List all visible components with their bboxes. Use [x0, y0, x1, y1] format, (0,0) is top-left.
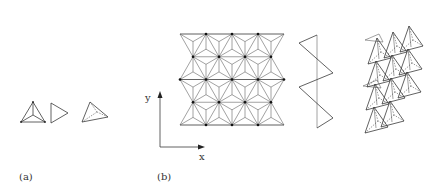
grid-edge: [232, 80, 245, 103]
x-axis-arrow-icon: [198, 145, 205, 150]
grid-edge: [219, 102, 232, 125]
shared-vertex: [218, 101, 221, 104]
shared-vertex: [257, 78, 260, 81]
tetrahedra-layer-plan: [179, 33, 286, 127]
grid-edge: [206, 57, 219, 80]
grid-edge: [271, 102, 284, 125]
tetrahedron-edge: [411, 86, 421, 92]
shared-vertex: [270, 101, 273, 104]
grid-edge: [258, 34, 271, 57]
shared-vertex: [192, 55, 195, 58]
grid-edge: [193, 57, 206, 80]
grid-edge: [258, 57, 271, 80]
tetrahedron-face: [365, 34, 383, 42]
figure: (a) y x (b): [0, 0, 435, 189]
grid-edge: [219, 80, 232, 103]
grid-edge: [219, 34, 232, 57]
grid-edge: [245, 34, 258, 57]
grid-edge: [232, 34, 245, 57]
grid-edge: [180, 34, 193, 57]
shared-vertex: [231, 78, 234, 81]
tetrahedron-perspective-view: [82, 102, 108, 122]
tetrahedron-face: [366, 84, 389, 110]
grid-edge: [206, 34, 219, 57]
tetrahedron-face: [368, 38, 391, 64]
grid-edge: [245, 80, 258, 103]
tetrahedron-edge: [412, 63, 422, 69]
shared-vertex: [244, 101, 247, 104]
grid-edge: [193, 80, 206, 103]
grid-edge: [271, 80, 284, 103]
grid-edge: [206, 80, 219, 103]
shared-vertex: [270, 55, 273, 58]
shared-vertex: [244, 55, 247, 58]
axes: y x: [144, 91, 205, 162]
panel-a-label: (a): [19, 171, 33, 182]
grid-edge: [258, 80, 271, 103]
tetrahedron-face: [400, 26, 423, 52]
panel-b: y x (b): [144, 26, 423, 182]
zigzag-chain-profile: [299, 35, 333, 128]
shared-vertex: [231, 33, 234, 36]
grid-edge: [258, 102, 271, 125]
y-axis-arrow-icon: [158, 91, 163, 98]
grid-edge: [180, 102, 193, 125]
shared-vertex: [257, 33, 260, 36]
panel-a: (a): [19, 101, 108, 182]
shared-vertex: [218, 55, 221, 58]
tetrahedron-face: [365, 107, 388, 133]
shared-vertex: [192, 101, 195, 104]
grid-edge: [232, 102, 245, 125]
grid-edge: [271, 57, 284, 80]
shared-vertex: [257, 124, 260, 127]
grid-edge: [193, 102, 206, 125]
grid-edge: [206, 102, 219, 125]
shared-vertex: [205, 78, 208, 81]
shared-vertex: [205, 124, 208, 127]
panel-b-label: (b): [157, 171, 171, 182]
grid-edge: [232, 57, 245, 80]
tetrahedron-side-view: [51, 103, 68, 123]
shared-vertex: [231, 124, 234, 127]
shared-vertex: [179, 78, 182, 81]
y-axis-label: y: [144, 92, 151, 103]
grid-edge: [180, 57, 193, 80]
grid-edge: [245, 57, 258, 80]
tetrahedron-face: [384, 32, 407, 58]
shared-vertex: [205, 33, 208, 36]
grid-edge: [219, 57, 232, 80]
tetrahedron-edge: [413, 40, 423, 46]
grid-edge: [180, 80, 193, 103]
shared-vertex: [283, 78, 286, 81]
tetrahedron-top-view: [20, 101, 46, 123]
x-axis-label: x: [199, 151, 205, 162]
grid-edge: [245, 102, 258, 125]
tetrahedra-stack-perspective: [363, 26, 423, 133]
grid-edge: [193, 34, 206, 57]
grid-edge: [271, 34, 284, 57]
tetrahedron-edge: [394, 115, 404, 121]
